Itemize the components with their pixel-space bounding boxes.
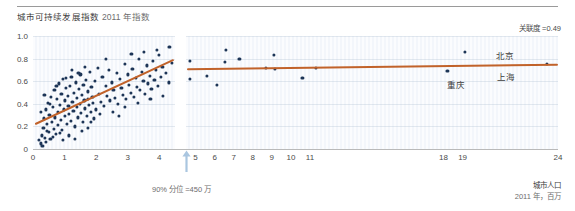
data-point	[83, 107, 86, 110]
data-point	[188, 77, 191, 80]
x-axis-line	[33, 149, 558, 150]
data-point	[89, 110, 92, 113]
data-point	[101, 75, 104, 78]
header-divider	[17, 6, 558, 7]
data-point	[58, 103, 61, 106]
data-point	[224, 60, 227, 63]
data-point	[238, 57, 241, 60]
data-point	[88, 103, 91, 106]
data-point	[124, 98, 127, 101]
y-axis-tick-label: 0.6	[17, 77, 28, 86]
data-point	[59, 118, 62, 121]
data-point	[71, 68, 74, 71]
data-point	[63, 99, 66, 102]
title-main: 城市可持续发展指数	[17, 12, 99, 22]
scatter-plot	[33, 36, 558, 149]
y-axis-labels: 1.00.80.60.40.20	[0, 30, 28, 155]
data-point	[82, 83, 85, 86]
data-point	[60, 92, 63, 95]
data-point	[69, 84, 72, 87]
data-point	[50, 95, 53, 98]
data-point	[64, 115, 67, 118]
x-axis-tick-label: 7	[231, 153, 235, 162]
x-axis-tick-label: 5	[193, 153, 197, 162]
data-point	[112, 89, 115, 92]
data-point	[110, 81, 113, 84]
gridline	[186, 36, 558, 37]
data-point	[124, 106, 127, 109]
data-point	[131, 67, 134, 70]
data-point	[215, 83, 218, 86]
data-point	[53, 89, 56, 92]
data-point	[115, 72, 118, 75]
data-point	[118, 77, 121, 80]
data-point	[80, 129, 83, 132]
data-point	[161, 94, 164, 97]
x-axis-tick-label: 10	[286, 153, 295, 162]
data-point	[99, 100, 102, 103]
data-point	[46, 123, 49, 126]
data-point	[188, 59, 191, 62]
data-point	[51, 106, 54, 109]
data-point	[158, 54, 161, 57]
data-point	[142, 50, 145, 53]
data-point	[167, 81, 170, 84]
x-axis-tick-label: 24	[554, 153, 563, 162]
data-point	[69, 119, 72, 122]
data-point	[123, 63, 126, 66]
data-point	[272, 54, 275, 57]
data-point	[68, 112, 71, 115]
data-point	[86, 126, 89, 129]
data-point	[117, 115, 120, 118]
data-point	[126, 73, 129, 76]
data-point	[40, 110, 43, 113]
data-point	[85, 115, 88, 118]
data-point	[64, 76, 67, 79]
percentile-note: 90% 分位 =450 万	[152, 183, 211, 194]
data-point	[132, 95, 135, 98]
x-axis-tick-label: 9	[270, 153, 274, 162]
data-point	[96, 66, 99, 69]
data-point	[98, 112, 101, 115]
x-axis-tick-label: 4	[157, 153, 161, 162]
city-label-重庆: 重庆	[447, 78, 465, 90]
data-point	[57, 82, 60, 85]
data-point	[142, 80, 145, 83]
data-point	[143, 92, 146, 95]
data-point	[170, 62, 173, 65]
data-point	[67, 134, 70, 137]
y-axis-tick-label: 0.2	[17, 122, 28, 131]
data-point	[65, 123, 68, 126]
data-point	[156, 84, 159, 87]
data-point	[44, 108, 47, 111]
page-title: 城市可持续发展指数2011 年指数	[17, 10, 150, 22]
data-point	[50, 120, 53, 123]
data-point	[148, 74, 151, 77]
gridline	[186, 126, 558, 127]
data-point	[90, 85, 93, 88]
data-point	[52, 135, 55, 138]
data-point	[93, 80, 96, 83]
trend-line	[34, 59, 174, 125]
data-point	[41, 144, 44, 147]
data-point	[76, 106, 79, 109]
gridline	[186, 104, 558, 105]
plot-panel-left	[33, 36, 175, 149]
data-point	[71, 100, 74, 103]
data-point	[137, 57, 140, 60]
percentile-arrow-icon	[181, 150, 192, 172]
data-point	[105, 57, 108, 60]
data-point	[205, 74, 208, 77]
x-axis-tick-label: 8	[251, 153, 255, 162]
x-axis-tick-label: 11	[306, 153, 314, 162]
data-point	[54, 133, 57, 136]
y-axis-tick-label: 0.8	[17, 54, 28, 63]
x-axis-tick-label: 2	[94, 153, 98, 162]
data-point	[60, 128, 63, 131]
x-axis-tick-label: 18	[439, 153, 448, 162]
data-point	[139, 89, 142, 92]
data-point	[106, 94, 109, 97]
data-point	[72, 109, 75, 112]
data-point	[224, 48, 227, 51]
data-point	[164, 72, 167, 75]
